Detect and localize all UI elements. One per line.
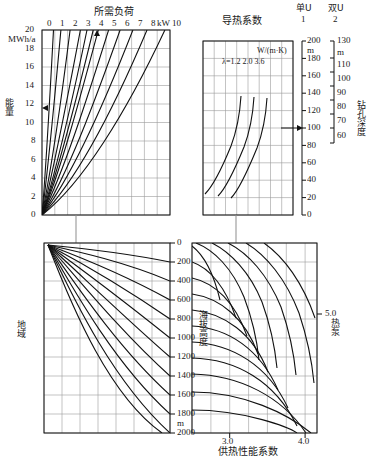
- load-unit-label: kW: [157, 19, 170, 28]
- energy-tick-0: 0: [31, 210, 36, 219]
- altitude-tick-0: 0: [177, 238, 182, 247]
- top-left-title: 所需负荷: [94, 7, 134, 17]
- load-tick-1: 1: [60, 19, 65, 28]
- single-u-tick-20: 20: [307, 193, 316, 202]
- single-u-tick-120: 120: [307, 106, 321, 115]
- altitude-axis-label: 海拔高度: [198, 310, 207, 346]
- single-u-number: 1: [301, 15, 306, 24]
- double-u-tick-100: 100: [337, 74, 351, 83]
- double-u-tick-60: 60: [337, 131, 346, 140]
- energy-axis-label: 能量: [4, 98, 13, 116]
- double-u-tick-70: 70: [337, 116, 346, 125]
- energy-tick-8: 8: [31, 136, 36, 145]
- marker-load-top: [94, 30, 100, 36]
- single-u-tick-180: 180: [307, 54, 321, 63]
- cop-ticks: [230, 433, 305, 438]
- double-u-number: 2: [333, 15, 338, 24]
- load-tick-0: 0: [47, 19, 52, 28]
- cop-corner-label: 5.0: [325, 309, 336, 318]
- energy-tick-4: 4: [31, 173, 36, 182]
- single-u-tick-100: 100: [307, 123, 321, 132]
- altitude-tick-200: 200: [177, 257, 191, 266]
- energy-tick-12: 12: [25, 99, 34, 108]
- single-u-head: 单U: [296, 4, 312, 13]
- energy-tick-14: 14: [25, 81, 34, 90]
- nomogram-figure: 所需负荷 MWh/a 0 1 2 3 4 5 6 7 8 kW 10 20 18…: [0, 0, 371, 460]
- single-u-tick-40: 40: [307, 175, 316, 184]
- altitude-tick-600: 600: [177, 295, 191, 304]
- scale-single-u: [302, 41, 306, 215]
- single-u-tick-140: 140: [307, 88, 321, 97]
- energy-tick-16: 16: [25, 62, 34, 71]
- altitude-tick-800: 800: [177, 314, 191, 323]
- energy-tick-20: 20: [25, 25, 34, 34]
- top-right-title: 导热系数: [222, 16, 262, 26]
- single-u-tick-200: 200: [307, 36, 321, 45]
- energy-tick-10: 10: [25, 118, 34, 127]
- load-tick-6: 6: [125, 19, 130, 28]
- altitude-tick-1400: 1400: [177, 371, 195, 380]
- altitude-ticks: [170, 243, 175, 433]
- panel-bottom-right: [192, 243, 322, 438]
- load-tick-3: 3: [86, 19, 91, 28]
- load-tick-7: 7: [138, 19, 143, 28]
- double-u-tick-80: 80: [337, 102, 346, 111]
- heat-pump-axis-label: 热泵: [330, 318, 339, 336]
- double-u-tick-130: 130: [337, 36, 351, 45]
- double-u-head: 双U: [328, 4, 344, 13]
- single-u-tick-0: 0: [307, 210, 312, 219]
- grid-top-right: [203, 41, 293, 215]
- lambda-values: λ=1.2 2.0 3.6: [222, 58, 264, 66]
- marker-energy: [42, 105, 48, 111]
- load-tick-8: 8: [151, 19, 156, 28]
- panel-top-left: [42, 30, 170, 215]
- altitude-tick-1200: 1200: [177, 352, 195, 361]
- energy-tick-2: 2: [31, 192, 36, 201]
- panel-bottom-left: [44, 243, 175, 433]
- single-u-tick-60: 60: [307, 158, 316, 167]
- altitude-tick-1800: 1800: [177, 409, 195, 418]
- region-axis-label: 地域: [16, 320, 25, 338]
- energy-tick-18: 18: [25, 44, 34, 53]
- altitude-tick-400: 400: [177, 276, 191, 285]
- connector-lines: [76, 215, 236, 243]
- double-u-tick-110: 110: [337, 60, 350, 69]
- cop-tick-4: 4.0: [298, 437, 309, 446]
- borehole-depth-axis-label: 钻孔深度: [356, 100, 365, 136]
- marker-depth: [281, 125, 303, 131]
- altitude-tick-1000: 1000: [177, 333, 195, 342]
- altitude-tick-2000: 2000: [177, 428, 195, 437]
- double-u-tick-90: 90: [337, 88, 346, 97]
- cop-axis-title: 供热性能系数: [218, 447, 278, 457]
- lambda-unit: W/(m·K): [257, 47, 287, 55]
- energy-tick-6: 6: [31, 155, 36, 164]
- load-tick-2: 2: [73, 19, 78, 28]
- double-u-unit: m: [337, 48, 344, 57]
- load-tick-5: 5: [112, 19, 117, 28]
- single-u-tick-80: 80: [307, 141, 316, 150]
- single-u-tick-160: 160: [307, 71, 321, 80]
- cop-tick-3: 3.0: [222, 437, 233, 446]
- load-tick-4: 4: [99, 19, 104, 28]
- scale-double-u: [330, 41, 334, 143]
- altitude-tick-1600: 1600: [177, 390, 195, 399]
- load-tick-10: 10: [172, 19, 181, 28]
